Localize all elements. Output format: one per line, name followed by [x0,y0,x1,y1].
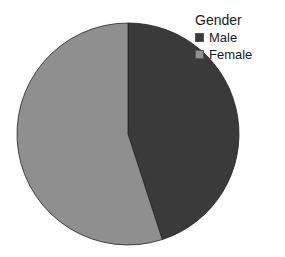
legend-label-male: Male [209,29,237,46]
legend-title: Gender [195,12,252,29]
legend-swatch-male [195,33,204,42]
legend-item-male: Male [195,29,252,46]
legend: Gender Male Female [185,12,252,63]
legend-item-female: Female [195,46,252,63]
legend-label-female: Female [209,46,252,63]
legend-swatch-female [195,50,204,59]
